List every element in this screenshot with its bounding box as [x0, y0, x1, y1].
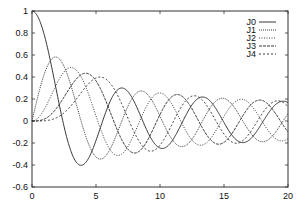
bessel-line-chart: -0.6-0.4-0.200.20.40.60.81 05101520 J0J1…	[0, 0, 301, 211]
y-tick-label: 0.6	[15, 50, 28, 60]
series-line-j2	[32, 67, 288, 155]
x-tick-label: 0	[29, 191, 34, 201]
x-tick-label: 10	[155, 191, 165, 201]
legend-label: J4	[246, 49, 256, 59]
y-tick-label: -0.6	[12, 182, 28, 192]
y-tick-label: 0.2	[15, 94, 28, 104]
y-tick-label: -0.4	[12, 160, 28, 170]
x-tick-label: 20	[283, 191, 293, 201]
x-tick-label: 5	[93, 191, 98, 201]
legend: J0J1J2J3J4	[246, 17, 276, 59]
y-tick-label: 0	[23, 116, 28, 126]
x-tick-label: 15	[219, 191, 229, 201]
y-tick-label: -0.2	[12, 138, 28, 148]
y-tick-label: 0.4	[15, 72, 28, 82]
series-line-j1	[32, 57, 288, 159]
y-tick-label: 0.8	[15, 28, 28, 38]
y-tick-label: 1	[23, 6, 28, 16]
